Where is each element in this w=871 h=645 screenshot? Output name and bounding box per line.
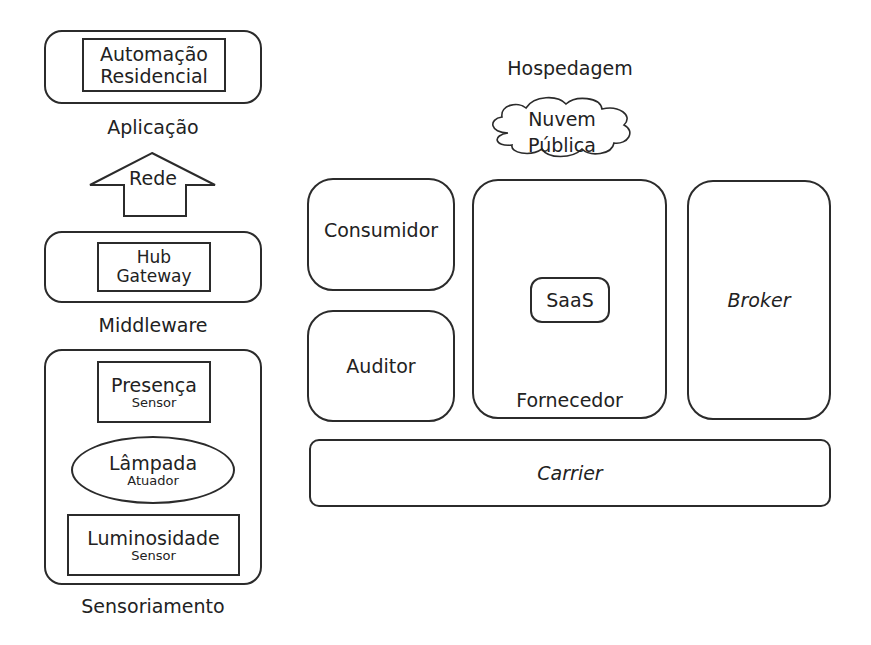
home-automation-box: Automação Residencial: [82, 38, 226, 92]
presence-subtitle: Sensor: [132, 396, 177, 410]
presence-sensor-box: Presença Sensor: [97, 361, 211, 423]
lamp-subtitle: Atuador: [127, 474, 179, 488]
middleware-layer-box: Hub Gateway: [44, 231, 262, 303]
presence-title: Presença: [111, 374, 197, 396]
middleware-caption: Middleware: [44, 314, 262, 336]
auditor-label: Auditor: [346, 355, 415, 377]
application-caption: Aplicação: [44, 116, 262, 138]
consumer-label: Consumidor: [324, 219, 438, 241]
hub-label: Hub: [137, 248, 171, 267]
hub-gateway-box: Hub Gateway: [97, 242, 211, 292]
carrier-box: Carrier: [309, 439, 831, 507]
provider-caption: Fornecedor: [474, 389, 665, 411]
luminosity-title: Luminosidade: [87, 527, 219, 549]
hosting-label: Hospedagem: [480, 57, 660, 79]
provider-box: SaaS Fornecedor: [472, 179, 667, 419]
auditor-box: Auditor: [307, 310, 455, 422]
lamp-actuator-ellipse: Lâmpada Atuador: [71, 436, 235, 504]
carrier-label: Carrier: [537, 462, 602, 484]
broker-label: Broker: [728, 289, 791, 311]
cloud-line1: Nuvem: [520, 108, 604, 130]
network-label: Rede: [110, 167, 196, 189]
lamp-title: Lâmpada: [109, 452, 197, 474]
cloud-line2: Pública: [520, 134, 604, 156]
saas-label: SaaS: [546, 289, 593, 311]
saas-box: SaaS: [530, 277, 610, 323]
luminosity-sensor-box: Luminosidade Sensor: [67, 514, 240, 576]
broker-box: Broker: [687, 180, 831, 420]
application-layer-box: Automação Residencial: [44, 30, 262, 104]
luminosity-subtitle: Sensor: [131, 549, 176, 563]
home-automation-line1: Automação: [100, 43, 208, 65]
gateway-label: Gateway: [116, 267, 191, 286]
sensing-layer-box: Presença Sensor Lâmpada Atuador Luminosi…: [44, 349, 262, 585]
consumer-box: Consumidor: [307, 178, 455, 291]
sensing-caption: Sensoriamento: [44, 595, 262, 617]
home-automation-line2: Residencial: [100, 65, 208, 87]
